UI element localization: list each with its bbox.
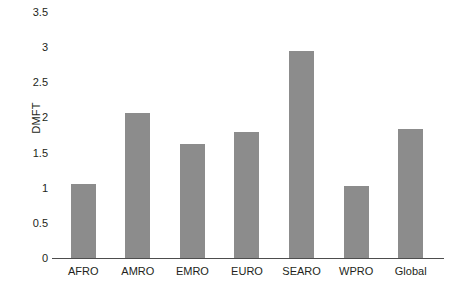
bar-slot <box>56 12 111 258</box>
bar[interactable] <box>344 186 369 258</box>
x-axis-tick-label: AFRO <box>68 264 99 278</box>
bar-chart-figure: 00.511.522.533.5 DMFT AFROAMROEMROEUROSE… <box>0 0 450 288</box>
y-axis-tick-label: 2.5 <box>4 77 48 88</box>
y-axis-tick-label: 1 <box>4 182 48 193</box>
x-axis-tick-label: EMRO <box>176 264 209 278</box>
bar-slot <box>329 12 384 258</box>
bar[interactable] <box>180 144 205 258</box>
x-axis-tick-label: Global <box>395 264 427 278</box>
bar[interactable] <box>234 132 259 258</box>
y-axis-title: DMFT <box>30 88 42 148</box>
bars-layer <box>56 12 438 258</box>
y-axis-tick-label: 0 <box>4 253 48 264</box>
plot-area <box>56 12 438 258</box>
bar-slot <box>111 12 166 258</box>
y-axis-tick-label: 0.5 <box>4 217 48 228</box>
x-axis-tick-label: SEARO <box>282 264 321 278</box>
y-axis-tick-label: 3.5 <box>4 7 48 18</box>
x-axis-tick-label: AMRO <box>121 264 154 278</box>
x-axis-tick-labels: AFROAMROEMROEUROSEAROWPROGlobal <box>56 264 438 284</box>
x-axis-tick-label: WPRO <box>339 264 373 278</box>
y-axis-tick-label: 3 <box>4 42 48 53</box>
bar[interactable] <box>398 129 423 258</box>
bar-slot <box>274 12 329 258</box>
bar-slot <box>220 12 275 258</box>
bar[interactable] <box>125 113 150 258</box>
x-axis-line <box>52 258 444 259</box>
bar[interactable] <box>71 184 96 258</box>
bar-slot <box>383 12 438 258</box>
y-axis-tick-label: 1.5 <box>4 147 48 158</box>
bar-slot <box>165 12 220 258</box>
x-axis-tick-label: EURO <box>231 264 263 278</box>
bar[interactable] <box>289 51 314 258</box>
